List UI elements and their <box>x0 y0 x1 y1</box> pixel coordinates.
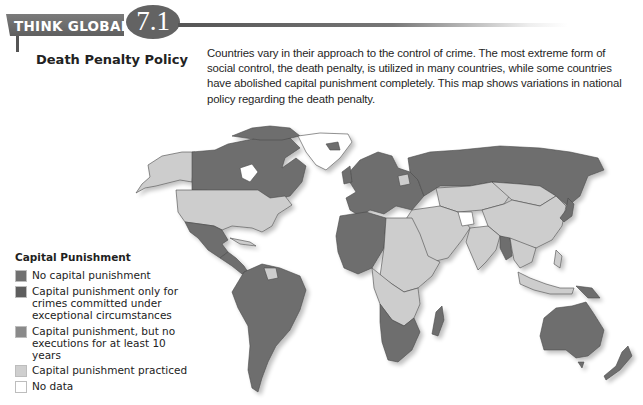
header-rule <box>178 23 568 27</box>
subtitle-bar <box>16 36 19 52</box>
legend-title: Capital Punishment <box>15 251 192 263</box>
feature-title: Death Penalty Policy <box>36 52 188 67</box>
description-line: social control, the death penalty, is ut… <box>207 61 627 76</box>
region-australia <box>540 302 604 358</box>
description-line: Countries vary in their approach to the … <box>207 46 627 61</box>
region-philippines <box>554 250 562 268</box>
description-line: policy regarding the death penalty. <box>207 92 627 107</box>
region-south-america <box>232 264 306 392</box>
legend-item-no-capital-punishment: No capital punishment <box>15 269 192 282</box>
region-greenland <box>298 133 352 170</box>
region-alaska <box>136 152 195 193</box>
legend-item-no-data: No data <box>15 380 192 393</box>
legend-label: Capital punishment practiced <box>32 364 192 376</box>
region-north-africa-west <box>336 212 386 274</box>
region-madagascar <box>432 306 444 336</box>
region-papua-new-guinea <box>576 286 600 298</box>
legend-label: No data <box>32 380 192 392</box>
legend-item-practiced: Capital punishment practiced <box>15 364 192 377</box>
legend-item-no-executions-10-years: Capital punishment, but no executions fo… <box>15 325 192 362</box>
legend-swatch <box>15 270 27 282</box>
legend-label: No capital punishment <box>32 269 192 281</box>
region-canada-islands <box>232 126 300 140</box>
legend-swatch <box>15 365 27 377</box>
region-uk <box>342 166 352 184</box>
legend-item-exceptional-circumstances: Capital punishment only for crimes commi… <box>15 285 192 322</box>
region-belarus <box>398 174 410 186</box>
legend-swatch <box>15 286 27 298</box>
legend-swatch <box>15 326 27 338</box>
legend-swatch <box>15 381 27 393</box>
region-central-america <box>220 252 248 274</box>
region-cuba <box>230 238 256 246</box>
description-line: have abolished capital punishment comple… <box>207 76 627 91</box>
region-indonesia <box>518 272 574 294</box>
region-india <box>466 226 500 270</box>
legend-label: Capital punishment, but no executions fo… <box>32 325 192 362</box>
description-paragraph: Countries vary in their approach to the … <box>207 46 627 107</box>
section-number: 7.1 <box>126 6 180 36</box>
legend-label: Capital punishment only for crimes commi… <box>32 285 192 322</box>
region-new-zealand <box>604 346 632 380</box>
map-legend: Capital Punishment No capital punishment… <box>15 251 192 396</box>
region-tasmania <box>578 362 584 368</box>
